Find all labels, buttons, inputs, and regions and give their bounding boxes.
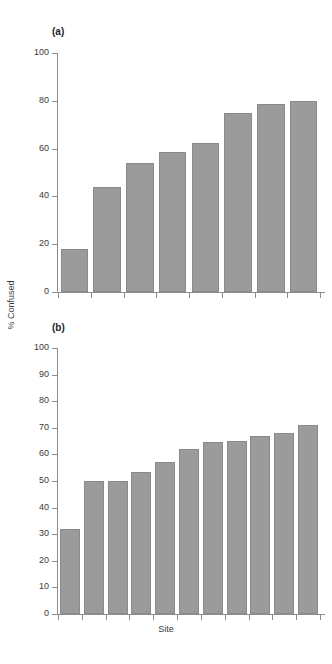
y-tick: 60 [52,454,57,455]
y-tick: 80 [52,401,57,402]
x-tick [272,615,273,620]
bar [155,462,175,614]
y-tick: 0 [52,292,57,293]
bar [179,449,199,614]
x-tick [225,615,226,620]
y-tick: 20 [52,244,57,245]
figure: % Confused (a) 020406080100 (b) 01020304… [0,0,332,664]
bar [274,433,294,614]
y-tick: 20 [52,561,57,562]
x-tick [287,293,288,298]
y-tick-label: 0 [23,286,49,296]
y-tick: 40 [52,196,57,197]
y-tick-label: 80 [23,395,49,405]
x-tick [124,293,125,298]
y-tick: 40 [52,508,57,509]
x-tick [177,615,178,620]
bar [126,163,154,292]
y-tick-label: 100 [23,342,49,352]
plot-area-b: 0102030405060708090100 [57,348,319,615]
bar [131,472,151,614]
bar [290,101,318,292]
panel-b: (b) 0102030405060708090100 [0,320,332,640]
bar [108,481,128,614]
x-tick [129,615,130,620]
bar [159,152,187,292]
x-tick [222,293,223,298]
x-axis-label: Site [0,624,332,634]
bar [257,104,285,292]
bar [250,436,270,614]
y-tick-label: 50 [23,475,49,485]
bar [224,113,252,292]
y-tick: 10 [52,587,57,588]
y-axis-line-b [57,348,58,615]
y-tick-label: 80 [23,95,49,105]
x-tick [201,615,202,620]
bar [93,187,121,292]
panel-a: (a) 020406080100 [0,20,332,320]
bar [84,481,104,614]
x-tick [249,615,250,620]
y-tick-label: 60 [23,143,49,153]
bar [192,143,220,292]
x-tick [58,615,59,620]
x-tick [106,615,107,620]
y-tick-label: 20 [23,555,49,565]
y-tick-label: 60 [23,448,49,458]
bar [203,442,223,614]
panel-b-label: (b) [52,322,65,333]
bar [61,249,89,292]
y-tick: 100 [52,348,57,349]
y-tick: 0 [52,614,57,615]
y-tick: 30 [52,534,57,535]
x-tick [58,293,59,298]
x-tick [320,615,321,620]
y-tick: 90 [52,375,57,376]
y-tick-label: 0 [23,608,49,618]
x-tick [255,293,256,298]
x-tick [320,293,321,298]
y-tick-label: 30 [23,528,49,538]
y-tick: 50 [52,481,57,482]
y-tick: 70 [52,428,57,429]
y-tick: 100 [52,53,57,54]
plot-area-a: 020406080100 [57,53,319,293]
panel-a-label: (a) [52,26,64,37]
x-tick [82,615,83,620]
y-tick: 60 [52,149,57,150]
y-tick-label: 100 [23,47,49,57]
y-tick-label: 10 [23,581,49,591]
x-axis-line-b [57,614,325,615]
x-tick [189,293,190,298]
x-tick [91,293,92,298]
bar [227,441,247,614]
y-tick-label: 40 [23,502,49,512]
x-tick [156,293,157,298]
y-tick-label: 70 [23,422,49,432]
y-tick-label: 20 [23,238,49,248]
y-axis-line-a [57,53,58,293]
bar [60,529,80,614]
y-tick-label: 40 [23,190,49,200]
x-axis-line-a [57,292,325,293]
y-tick-label: 90 [23,369,49,379]
bar [298,425,318,614]
x-tick [153,615,154,620]
x-tick [296,615,297,620]
y-tick: 80 [52,101,57,102]
